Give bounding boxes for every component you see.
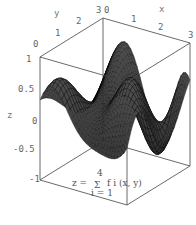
svg-text:i = 1: i = 1 [91, 188, 113, 198]
y-tick-1: 1 [55, 28, 60, 38]
formula-annotation: z = Σ 4 i = 1 f i (x, y) [72, 168, 142, 198]
y-tick-0: 0 [33, 39, 38, 49]
y-axis-label: y [54, 8, 60, 18]
z-tick-0.5: 0.5 [18, 84, 34, 94]
z-tick-neg0.5: -0.5 [13, 144, 35, 154]
z-tick-neg1: -1 [29, 174, 40, 184]
z-tick-0: 0 [32, 116, 37, 126]
z-tick-1: 1 [26, 54, 31, 64]
x-tick-1: 1 [131, 14, 136, 24]
y-tick-2: 2 [76, 16, 81, 26]
x-axis-label: x [159, 4, 165, 14]
svg-text:z =: z = [72, 178, 87, 188]
y-tick-3: 3 [96, 5, 101, 15]
x-tick-2: 2 [158, 22, 163, 32]
x-tick-0: 0 [104, 5, 109, 15]
x-tick-3: 3 [188, 30, 193, 40]
z-axis-label: z [7, 110, 12, 120]
surface-mesh [40, 42, 190, 159]
surface-plot: 0 1 2 3 y 0 1 2 3 x 1 0.5 0 -0.5 -1 z z … [0, 0, 196, 225]
svg-text:f i (x, y): f i (x, y) [107, 178, 142, 188]
svg-text:4: 4 [97, 168, 103, 178]
